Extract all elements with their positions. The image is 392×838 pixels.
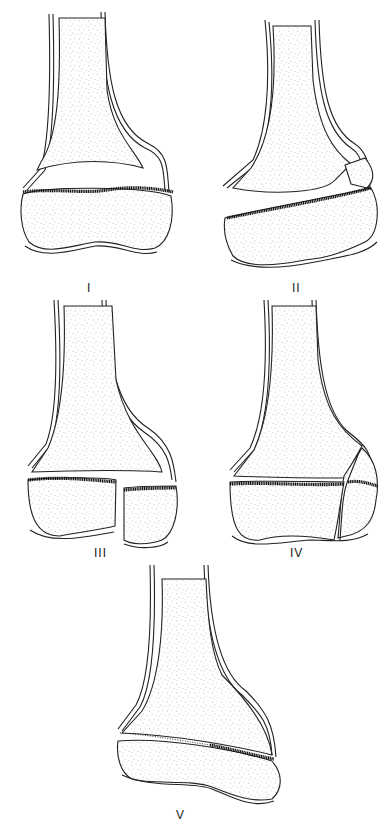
panel-type-ii [215,20,392,280]
bone-diagram-type-v [112,565,312,805]
panel-type-iv [220,300,392,550]
label-type-ii: II [292,281,301,295]
label-type-v: V [176,808,185,822]
panel-type-i [15,10,195,280]
bone-diagram-type-iv [220,300,392,550]
bone-diagram-type-i [15,10,195,280]
label-type-iii: III [94,546,107,560]
panel-type-v [112,565,312,805]
panel-type-iii [20,300,200,550]
label-type-iv: IV [290,546,303,560]
bone-diagram-type-ii [215,20,392,280]
label-type-i: I [87,281,91,295]
bone-diagram-type-iii [20,300,200,550]
